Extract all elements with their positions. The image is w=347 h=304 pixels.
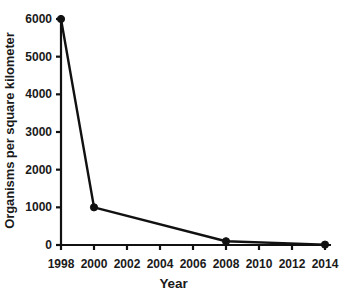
x-axis-tick-label: 2006	[180, 257, 207, 271]
x-axis-tick-label: 2004	[147, 257, 174, 271]
x-axis-tick-label: 2000	[81, 257, 108, 271]
x-axis-tick-label: 2014	[312, 257, 339, 271]
y-axis-tick-label: 5000	[0, 50, 52, 64]
data-point	[321, 241, 328, 248]
y-axis-tick-label: 2000	[0, 163, 52, 177]
data-point-markers	[57, 15, 328, 248]
x-axis-title: Year	[0, 276, 347, 291]
x-axis-tick-label: 1998	[48, 257, 75, 271]
y-axis-tick-label: 0	[0, 238, 52, 252]
x-axis-tick-label: 2002	[114, 257, 141, 271]
y-axis-tick-label: 1000	[0, 200, 52, 214]
x-axis-tick-label: 2010	[246, 257, 273, 271]
data-point	[90, 204, 97, 211]
y-axis-tick-label: 3000	[0, 125, 52, 139]
y-axis-tick-label: 4000	[0, 87, 52, 101]
data-series-line	[61, 19, 325, 245]
chart-tick-marks	[56, 19, 325, 250]
line-chart: Organisms per square kilometer Year 0100…	[0, 0, 347, 304]
data-point	[57, 15, 64, 22]
data-point	[222, 238, 229, 245]
y-axis-tick-label: 6000	[0, 12, 52, 26]
x-axis-tick-label: 2012	[279, 257, 306, 271]
x-axis-tick-label: 2008	[213, 257, 240, 271]
chart-axes	[61, 15, 331, 245]
